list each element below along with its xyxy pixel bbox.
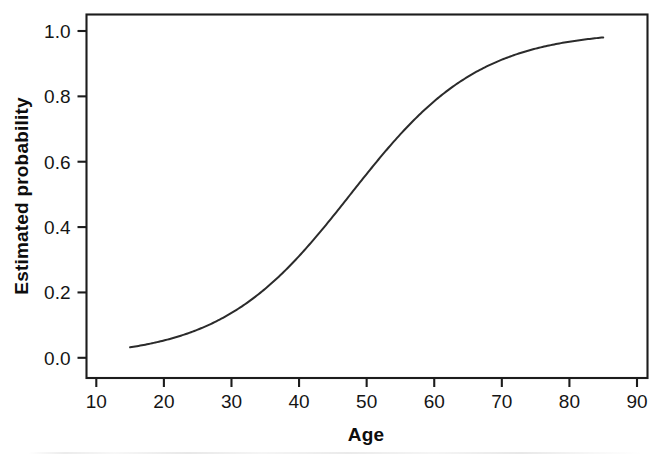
- x-tick-label-10: 10: [86, 391, 107, 412]
- logistic-probability-chart: 102030405060708090 0.00.20.40.60.81.0 Ag…: [0, 0, 667, 459]
- x-axis-tick-marks: [96, 378, 637, 387]
- x-tick-label-50: 50: [356, 391, 377, 412]
- y-axis-tick-labels: 0.00.20.40.60.81.0: [44, 21, 71, 369]
- x-axis-tick-labels: 102030405060708090: [86, 391, 648, 412]
- x-tick-label-80: 80: [559, 391, 580, 412]
- scan-artifact-line: [28, 452, 643, 454]
- y-tick-label-1.0: 1.0: [44, 21, 70, 42]
- y-axis-title: Estimated probability: [11, 97, 32, 295]
- x-tick-label-40: 40: [288, 391, 309, 412]
- y-tick-label-0.2: 0.2: [44, 282, 70, 303]
- figure-canvas: 102030405060708090 0.00.20.40.60.81.0 Ag…: [0, 0, 667, 459]
- plot-frame: [87, 15, 648, 379]
- y-axis-tick-marks: [78, 31, 87, 358]
- x-tick-label-70: 70: [491, 391, 512, 412]
- x-tick-label-30: 30: [221, 391, 242, 412]
- y-tick-label-0.6: 0.6: [44, 152, 70, 173]
- y-tick-label-0.8: 0.8: [44, 86, 70, 107]
- x-axis-title: Age: [348, 424, 385, 445]
- x-tick-label-60: 60: [424, 391, 445, 412]
- y-tick-label-0.4: 0.4: [44, 217, 71, 238]
- x-tick-label-90: 90: [626, 391, 647, 412]
- y-tick-label-0.0: 0.0: [44, 348, 70, 369]
- x-tick-label-20: 20: [153, 391, 174, 412]
- estimated-probability-curve: [130, 37, 603, 347]
